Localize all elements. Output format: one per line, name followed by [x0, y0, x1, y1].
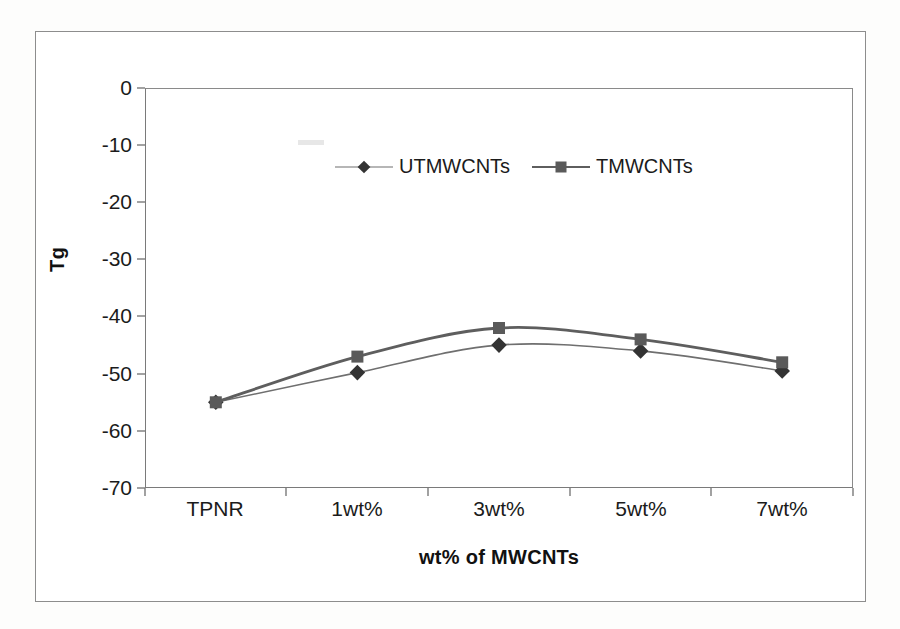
y-tick-label: 0: [76, 77, 132, 98]
y-tick-label: -40: [76, 305, 132, 326]
diamond-marker-icon: [633, 343, 649, 359]
square-marker-icon: [210, 396, 222, 408]
square-marker-icon: [635, 333, 647, 345]
y-axis-ticks: [137, 88, 145, 488]
chart-legend: UTMWCNTs TMWCNTs: [335, 155, 693, 178]
square-marker-icon: [493, 322, 505, 334]
y-tick-label: -10: [76, 134, 132, 155]
y-axis-tick-labels: 0 -10 -20 -30 -40 -50 -60 -70: [74, 0, 132, 629]
diamond-marker-icon: [491, 337, 507, 353]
square-marker-icon: [351, 351, 363, 363]
figure-container: 0 -10 -20 -30 -40 -50 -60 -70 TPNR 1wt% …: [0, 0, 900, 629]
square-marker-icon: [532, 158, 590, 176]
x-tick-label: 3wt%: [473, 497, 524, 521]
y-tick-label: -60: [76, 420, 132, 441]
x-axis-title: wt% of MWCNTs: [145, 546, 853, 569]
x-tick-label: TPNR: [186, 497, 243, 521]
series-tmwcnts: [210, 322, 788, 408]
legend-label-tmwcnts: TMWCNTs: [596, 155, 693, 178]
y-tick-label: -50: [76, 363, 132, 384]
x-tick-label: 7wt%: [756, 497, 807, 521]
y-tick-label: -30: [76, 248, 132, 269]
y-tick-label: -70: [76, 477, 132, 498]
x-tick-label: 1wt%: [331, 497, 382, 521]
x-axis-ticks: [145, 488, 853, 496]
x-axis-tick-labels: TPNR 1wt% 3wt% 5wt% 7wt%: [145, 497, 853, 531]
y-axis-title: Tg: [46, 247, 69, 272]
diamond-marker-icon: [350, 365, 366, 381]
chart-canvas: [0, 0, 900, 629]
legend-label-utmwcnts: UTMWCNTs: [399, 155, 510, 178]
legend-entry-utmwcnts: UTMWCNTs: [335, 155, 510, 178]
square-marker-icon: [776, 356, 788, 368]
diamond-marker-icon: [335, 158, 393, 176]
legend-entry-tmwcnts: TMWCNTs: [532, 155, 693, 178]
y-tick-label: -20: [76, 191, 132, 212]
x-tick-label: 5wt%: [615, 497, 666, 521]
